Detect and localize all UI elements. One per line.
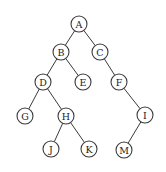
tree-node-i: I xyxy=(137,107,153,123)
node-label: J xyxy=(48,144,53,155)
edge-h-k xyxy=(71,123,85,143)
node-label: B xyxy=(58,47,65,58)
tree-node-b: B xyxy=(53,44,69,60)
edge-f-i xyxy=(124,88,140,108)
node-label: C xyxy=(96,47,103,58)
edge-b-e xyxy=(66,58,79,75)
tree-node-a: A xyxy=(71,16,87,32)
tree-node-h: H xyxy=(58,108,74,124)
edge-a-c xyxy=(84,30,95,45)
node-label: E xyxy=(80,77,87,88)
tree-node-k: K xyxy=(81,141,97,157)
node-label: H xyxy=(62,111,70,122)
tree-node-c: C xyxy=(92,44,108,60)
edge-i-m xyxy=(128,122,141,143)
tree-node-d: D xyxy=(35,74,51,90)
tree-node-g: G xyxy=(17,108,33,124)
edge-d-g xyxy=(29,89,40,109)
tree-nodes: ABCDEFGHIJKM xyxy=(17,16,153,158)
edge-a-b xyxy=(65,31,74,46)
edge-c-f xyxy=(104,59,114,75)
tree-node-j: J xyxy=(43,141,59,157)
edge-h-j xyxy=(54,123,62,141)
node-label: I xyxy=(143,110,147,121)
node-label: K xyxy=(85,144,93,155)
binary-tree-diagram: ABCDEFGHIJKM xyxy=(0,0,166,172)
node-label: A xyxy=(75,19,83,30)
node-label: G xyxy=(21,111,29,122)
tree-node-e: E xyxy=(75,74,91,90)
node-label: M xyxy=(119,145,129,156)
edge-b-d xyxy=(47,59,57,75)
node-label: D xyxy=(39,77,47,88)
tree-node-m: M xyxy=(116,142,132,158)
tree-node-f: F xyxy=(111,74,127,90)
node-label: F xyxy=(116,77,123,88)
edge-d-h xyxy=(47,89,61,110)
